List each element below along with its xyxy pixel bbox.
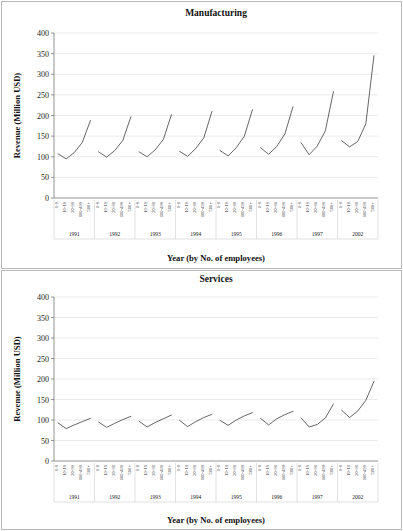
x-category-label: 1-9 xyxy=(257,464,262,471)
x-category-label: 1-9 xyxy=(54,464,59,471)
x-category-label: 500+ xyxy=(370,202,375,212)
x-category-label: 1-9 xyxy=(257,201,262,208)
x-category-label: 20-99 xyxy=(111,201,116,212)
x-category-label: 20-99 xyxy=(111,464,116,475)
series-line-1992 xyxy=(99,416,131,427)
y-tick-label-350: 350 xyxy=(37,50,49,59)
series-line-1992 xyxy=(99,117,131,157)
x-category-label: 20-99 xyxy=(151,201,156,212)
x-category-label: 10-19 xyxy=(305,464,310,475)
manufacturing-chart-svg: Manufacturing050100150200250300350400Rev… xyxy=(2,2,403,268)
series-line-1994 xyxy=(180,111,212,156)
x-year-label-1992: 1992 xyxy=(109,231,120,237)
x-year-label-1995: 1995 xyxy=(231,231,242,237)
x-category-label: 1-9 xyxy=(297,201,302,208)
y-tick-label-200: 200 xyxy=(37,112,49,121)
x-category-label: 10-19 xyxy=(346,201,351,212)
x-category-label: 1-9 xyxy=(176,201,181,208)
x-category-label: 10-19 xyxy=(265,464,270,475)
x-category-label: 10-19 xyxy=(224,201,229,212)
x-category-label: 10-19 xyxy=(265,201,270,212)
x-year-label-1993: 1993 xyxy=(150,231,161,237)
x-category-label: 500+ xyxy=(289,202,294,212)
x-axis-title: Year (by No. of employees) xyxy=(167,515,265,525)
y-tick-label-250: 250 xyxy=(37,355,49,364)
y-tick-label-300: 300 xyxy=(37,70,49,79)
x-year-label-2002: 2002 xyxy=(352,231,363,237)
x-category-label: 100-499 xyxy=(321,464,326,480)
x-year-label-1997: 1997 xyxy=(312,494,323,500)
x-category-label: 1-9 xyxy=(95,201,100,208)
x-category-label: 100-499 xyxy=(321,201,326,217)
x-category-label: 20-99 xyxy=(232,464,237,475)
x-category-label: 100-499 xyxy=(281,464,286,480)
x-category-label: 10-19 xyxy=(305,201,310,212)
x-category-label: 100-499 xyxy=(200,201,205,217)
x-year-label-1992: 1992 xyxy=(109,494,120,500)
series-line-1995 xyxy=(220,110,252,156)
x-year-label-1996: 1996 xyxy=(271,231,282,237)
x-category-label: 1-9 xyxy=(297,464,302,471)
y-axis-title: Revenue (Million USD) xyxy=(12,336,22,422)
x-category-label: 500+ xyxy=(208,465,213,475)
x-category-label: 500+ xyxy=(127,202,132,212)
x-year-label-1994: 1994 xyxy=(190,494,201,500)
x-category-label: 20-99 xyxy=(313,201,318,212)
x-year-label-1996: 1996 xyxy=(271,494,282,500)
x-category-label: 100-499 xyxy=(119,201,124,217)
x-category-label: 100-499 xyxy=(119,464,124,480)
series-line-1996 xyxy=(261,107,293,154)
y-tick-label-0: 0 xyxy=(45,194,49,203)
x-year-label-1991: 1991 xyxy=(69,494,80,500)
x-category-label: 500+ xyxy=(208,202,213,212)
y-tick-label-50: 50 xyxy=(41,437,49,446)
y-tick-label-400: 400 xyxy=(37,293,49,302)
x-category-label: 100-499 xyxy=(281,201,286,217)
x-year-label-1993: 1993 xyxy=(150,494,161,500)
y-tick-label-350: 350 xyxy=(37,314,49,323)
x-category-label: 1-9 xyxy=(338,201,343,208)
x-category-label: 10-19 xyxy=(224,464,229,475)
x-year-label-1995: 1995 xyxy=(231,494,242,500)
x-category-label: 20-99 xyxy=(354,464,359,475)
x-category-label: 100-499 xyxy=(200,464,205,480)
x-category-label: 10-19 xyxy=(184,464,189,475)
x-category-label: 500+ xyxy=(86,465,91,475)
x-year-label-2002: 2002 xyxy=(352,494,363,500)
x-category-label: 1-9 xyxy=(135,201,140,208)
x-category-label: 500+ xyxy=(86,202,91,212)
x-category-label: 100-499 xyxy=(78,464,83,480)
y-tick-label-100: 100 xyxy=(37,416,49,425)
x-category-label: 1-9 xyxy=(216,201,221,208)
x-category-label: 10-19 xyxy=(103,464,108,475)
x-year-label-1991: 1991 xyxy=(69,231,80,237)
x-category-label: 100-499 xyxy=(159,201,164,217)
x-category-label: 20-99 xyxy=(273,201,278,212)
series-line-1997 xyxy=(301,92,333,155)
x-year-label-1994: 1994 xyxy=(190,231,201,237)
figure-container: Manufacturing050100150200250300350400Rev… xyxy=(0,0,403,531)
x-category-label: 100-499 xyxy=(240,201,245,217)
x-year-label-1997: 1997 xyxy=(312,231,323,237)
y-tick-label-0: 0 xyxy=(45,457,49,466)
series-line-2002 xyxy=(342,56,374,147)
x-category-label: 10-19 xyxy=(143,201,148,212)
y-tick-label-100: 100 xyxy=(37,153,49,162)
chart-panel-manufacturing: Manufacturing050100150200250300350400Rev… xyxy=(1,1,402,269)
x-category-label: 20-99 xyxy=(192,464,197,475)
services-chart-svg: Services050100150200250300350400Revenue … xyxy=(2,271,403,529)
x-category-label: 500+ xyxy=(167,465,172,475)
x-category-label: 1-9 xyxy=(338,464,343,471)
series-line-1993 xyxy=(139,415,171,427)
y-tick-label-200: 200 xyxy=(37,375,49,384)
x-category-label: 20-99 xyxy=(70,464,75,475)
series-line-1997 xyxy=(301,404,333,427)
x-category-label: 10-19 xyxy=(143,464,148,475)
x-category-label: 1-9 xyxy=(176,464,181,471)
x-category-label: 1-9 xyxy=(54,201,59,208)
series-line-1994 xyxy=(180,414,212,426)
x-category-label: 10-19 xyxy=(103,201,108,212)
chart-title: Manufacturing xyxy=(185,8,247,18)
x-category-label: 500+ xyxy=(248,202,253,212)
x-axis-title: Year (by No. of employees) xyxy=(167,253,265,263)
